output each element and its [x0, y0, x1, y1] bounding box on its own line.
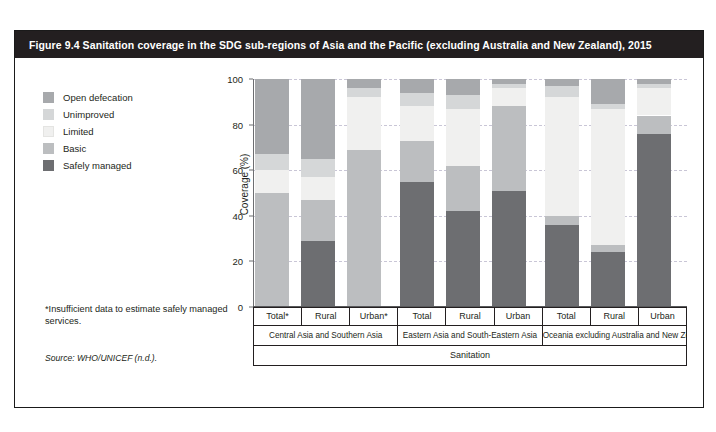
y-axis-tick-label: 100 [217, 74, 243, 85]
bar-segment [400, 79, 434, 93]
x-axis-bar-label: Rural [590, 308, 638, 326]
bar-segment [545, 216, 579, 225]
legend-swatch-icon [43, 126, 54, 137]
bar-segment [637, 84, 671, 89]
bar-segment [637, 134, 671, 307]
stacked-bar [400, 79, 434, 307]
stacked-bar [255, 79, 289, 307]
bar-segment [492, 84, 526, 89]
stacked-bar [591, 79, 625, 307]
bar-segment [637, 79, 671, 84]
legend-swatch-icon [43, 109, 54, 120]
bar-segment [492, 106, 526, 190]
bar-segment [301, 241, 335, 307]
legend-item-label: Unimproved [63, 109, 114, 120]
legend-swatch-icon [43, 143, 54, 154]
bar-segment [492, 191, 526, 307]
bars-layer [253, 79, 687, 307]
legend-item-label: Limited [63, 126, 94, 137]
bar-segment [591, 104, 625, 109]
x-axis-group-label: Oceania excluding Australia and New Zeal… [542, 326, 686, 346]
legend-item-label: Basic [63, 143, 86, 154]
axis-box [253, 79, 687, 307]
bar-segment [347, 79, 381, 88]
bar-segment [545, 79, 579, 86]
bar-segment [400, 182, 434, 307]
x-axis-table: Total*RuralUrban*TotalRuralUrbanTotalRur… [253, 307, 687, 366]
bar-segment [591, 252, 625, 307]
bar-segment [545, 86, 579, 97]
x-axis-bar-label: Rural [302, 308, 350, 326]
y-axis-tick-label: 20 [217, 256, 243, 267]
x-axis-bar-label: Urban [494, 308, 542, 326]
y-axis-tick-label: 40 [217, 210, 243, 221]
y-axis-tick-label: 60 [217, 165, 243, 176]
legend-item: Unimproved [43, 106, 213, 123]
x-axis-group-labels-row: Central Asia and Southern AsiaEastern As… [254, 326, 687, 346]
x-axis-bottom-label-row: Sanitation [254, 346, 687, 366]
bar-segment [400, 141, 434, 182]
y-axis-ticks: 020406080100 [219, 79, 249, 307]
bar-segment [400, 106, 434, 140]
bar-segment [301, 159, 335, 177]
bar-segment [637, 88, 671, 115]
bar-segment [545, 225, 579, 307]
bar-segment [301, 177, 335, 200]
bar-segment [347, 88, 381, 97]
figure-title: Figure 9.4 Sanitation coverage in the SD… [15, 39, 652, 51]
bar-segment [591, 79, 625, 104]
legend-item: Limited [43, 123, 213, 140]
x-axis-bottom-label: Sanitation [254, 346, 687, 366]
bar-segment [301, 79, 335, 159]
bar-segment [301, 200, 335, 241]
bar-segment [255, 154, 289, 170]
stacked-bar [301, 79, 335, 307]
y-axis-tick-label: 80 [217, 119, 243, 130]
bar-segment [545, 97, 579, 216]
x-axis-bar-label: Urban* [350, 308, 398, 326]
stacked-bar [446, 79, 480, 307]
bar-segment [347, 97, 381, 149]
x-axis-group-label: Central Asia and Southern Asia [254, 326, 398, 346]
bar-segment [255, 170, 289, 193]
bar-segment [637, 116, 671, 134]
x-axis-bar-label: Urban [638, 308, 686, 326]
stacked-bar [492, 79, 526, 307]
figure-title-bar: Figure 9.4 Sanitation coverage in the SD… [15, 31, 703, 58]
bar-segment [400, 93, 434, 107]
stacked-bar [637, 79, 671, 307]
stacked-bar [545, 79, 579, 307]
bar-segment [446, 79, 480, 95]
chart-legend: Open defecationUnimprovedLimitedBasicSaf… [43, 89, 213, 174]
bar-segment [591, 245, 625, 252]
x-axis-bar-label: Total* [254, 308, 302, 326]
bar-segment [347, 150, 381, 307]
x-axis-group-label: Eastern Asia and South-Eastern Asia [398, 326, 542, 346]
bar-segment [492, 88, 526, 106]
x-axis-bar-label: Total [398, 308, 446, 326]
legend-item: Open defecation [43, 89, 213, 106]
x-axis-bar-labels-row: Total*RuralUrban*TotalRuralUrbanTotalRur… [254, 308, 687, 326]
y-axis-tick-label: 0 [217, 302, 243, 313]
bar-segment [446, 211, 480, 307]
legend-item-label: Safely managed [63, 160, 132, 171]
bar-segment [255, 79, 289, 154]
legend-swatch-icon [43, 92, 54, 103]
figure-frame: Figure 9.4 Sanitation coverage in the SD… [14, 30, 704, 408]
bar-segment [492, 79, 526, 84]
bar-segment [446, 95, 480, 109]
stacked-bar [347, 79, 381, 307]
bar-segment [446, 109, 480, 166]
figure-page: Figure 9.4 Sanitation coverage in the SD… [0, 0, 716, 432]
figure-source: Source: WHO/UNICEF (n.d.). [45, 353, 157, 363]
bar-segment [591, 109, 625, 246]
x-axis-bar-label: Total [542, 308, 590, 326]
bar-segment [255, 193, 289, 307]
legend-swatch-icon [43, 160, 54, 171]
legend-item-label: Open defecation [63, 92, 133, 103]
x-axis-bar-label: Rural [446, 308, 494, 326]
legend-item: Safely managed [43, 157, 213, 174]
legend-item: Basic [43, 140, 213, 157]
bar-segment [446, 166, 480, 212]
